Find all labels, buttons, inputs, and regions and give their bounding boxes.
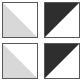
tile-top-right[interactable] bbox=[44, 2, 80, 38]
triangle-fill-top-right bbox=[45, 3, 79, 37]
triangle-fill-top-left bbox=[3, 3, 37, 37]
tile-top-left[interactable] bbox=[2, 2, 38, 38]
lower-left-triangle-icon bbox=[3, 44, 37, 78]
tile-bottom-right[interactable] bbox=[44, 43, 80, 79]
lower-left-triangle-icon bbox=[3, 3, 37, 37]
triangle-fill-bottom-left bbox=[3, 44, 37, 78]
tile-grid bbox=[0, 0, 84, 83]
triangle-fill-bottom-right bbox=[45, 44, 79, 78]
upper-left-triangle-icon bbox=[45, 44, 79, 78]
upper-left-triangle-icon bbox=[45, 3, 79, 37]
tile-bottom-left[interactable] bbox=[2, 43, 38, 79]
